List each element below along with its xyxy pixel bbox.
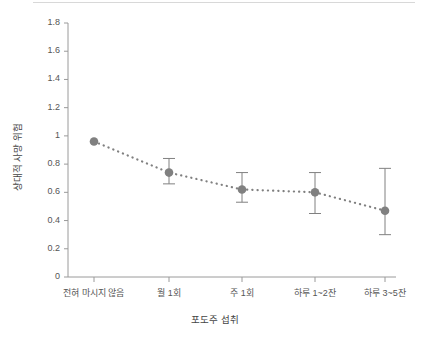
y-tick-label: 0 <box>30 272 60 281</box>
y-tick-label: 0.6 <box>30 187 60 196</box>
x-tick-label: 전혀 마시지 않음 <box>63 289 124 298</box>
chart-figure: 00.20.40.60.811.21.41.61.8 전혀 마시지 않음월 1회… <box>0 0 430 346</box>
x-tick-label: 하루 1~2잔 <box>294 289 336 298</box>
data-point-marker <box>238 185 247 194</box>
y-tick-label: 1.2 <box>30 103 60 112</box>
data-point-marker <box>90 137 99 146</box>
data-point-marker <box>165 168 174 177</box>
y-tick-label: 1 <box>30 131 60 140</box>
data-point-marker <box>381 206 390 215</box>
trend-line <box>94 142 385 211</box>
y-tick-marks <box>64 23 68 277</box>
x-tick-marks <box>94 277 385 282</box>
x-tick-label: 월 1회 <box>157 289 181 298</box>
data-series <box>90 137 391 234</box>
x-tick-label: 하루 3~5잔 <box>364 289 406 298</box>
y-tick-label: 0.8 <box>30 159 60 168</box>
y-tick-label: 1.8 <box>30 18 60 27</box>
y-tick-label: 1.4 <box>30 74 60 83</box>
y-axis-title: 상대적 사망 위험 <box>10 97 24 217</box>
y-tick-label: 1.6 <box>30 46 60 55</box>
x-tick-label: 주 1회 <box>230 289 254 298</box>
y-tick-label: 0.4 <box>30 216 60 225</box>
axes <box>68 23 396 277</box>
x-axis-title: 포도주 섭취 <box>0 312 430 326</box>
y-tick-label: 0.2 <box>30 244 60 253</box>
data-point-marker <box>311 188 320 197</box>
